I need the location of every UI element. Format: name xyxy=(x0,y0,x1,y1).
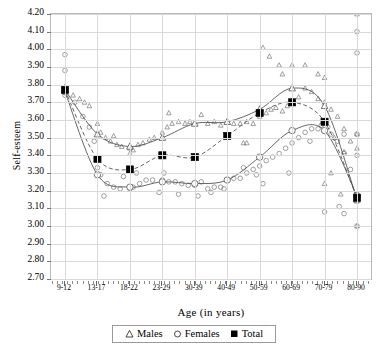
y-gridline xyxy=(51,138,371,139)
series-line-females xyxy=(65,92,357,196)
x-minor-tick xyxy=(139,281,140,284)
x-minor-tick xyxy=(113,281,114,284)
scatter-point-males xyxy=(167,110,172,114)
scatter-point-males xyxy=(280,109,285,113)
y-gridline xyxy=(51,49,371,50)
x-minor-tick xyxy=(261,281,262,284)
y-tick-mark xyxy=(47,173,51,174)
scatter-point-males xyxy=(348,139,353,143)
y-gridline xyxy=(51,279,371,280)
y-tick-mark xyxy=(47,191,51,192)
x-gridline xyxy=(97,14,98,279)
y-axis-tick-label: 3.70 xyxy=(0,96,44,106)
open-circle-icon xyxy=(173,329,182,338)
x-minor-tick xyxy=(322,281,323,284)
x-gridline xyxy=(195,14,196,279)
scatter-point-females xyxy=(261,181,266,186)
y-tick-mark xyxy=(47,208,51,209)
x-minor-tick xyxy=(174,281,175,284)
x-gridline xyxy=(292,14,293,279)
legend-item-total: Total xyxy=(230,328,263,339)
x-minor-tick xyxy=(220,281,221,284)
scatter-point-males xyxy=(199,112,204,116)
x-minor-tick xyxy=(154,281,155,284)
y-axis-tick-label: 4.20 xyxy=(0,8,44,18)
scatter-point-males xyxy=(77,96,82,100)
legend-label: Total xyxy=(242,328,263,339)
scatter-point-females xyxy=(308,139,313,144)
x-gridline xyxy=(130,14,131,279)
x-minor-tick xyxy=(62,281,63,284)
y-axis-tick-label: 4.10 xyxy=(0,26,44,36)
scatter-point-females xyxy=(264,158,269,163)
x-gridline xyxy=(357,14,358,279)
y-axis-tick-label: 2.80 xyxy=(0,255,44,265)
y-axis-tick-label: 3.90 xyxy=(0,61,44,71)
scatter-point-females xyxy=(342,132,347,137)
scatter-point-males xyxy=(338,192,343,196)
scatter-point-males xyxy=(329,107,334,111)
y-gridline xyxy=(51,173,371,174)
x-tick-mark xyxy=(324,281,325,286)
x-minor-tick xyxy=(98,281,99,284)
y-gridline xyxy=(51,67,371,68)
scatter-point-females xyxy=(92,139,97,144)
scatter-point-females xyxy=(196,194,201,199)
x-minor-tick xyxy=(235,281,236,284)
y-gridline xyxy=(51,261,371,262)
plot-area xyxy=(50,13,372,280)
x-minor-tick xyxy=(118,281,119,284)
scatter-point-males xyxy=(231,121,236,125)
x-minor-tick xyxy=(164,281,165,284)
y-tick-mark xyxy=(47,49,51,50)
x-minor-tick xyxy=(332,281,333,284)
y-axis-tick-label: 3.50 xyxy=(0,132,44,142)
x-minor-tick xyxy=(210,281,211,284)
x-minor-tick xyxy=(281,281,282,284)
y-tick-mark xyxy=(47,85,51,86)
x-minor-tick xyxy=(302,281,303,284)
y-gridline xyxy=(51,244,371,245)
scatter-point-males xyxy=(218,123,223,127)
y-gridline xyxy=(51,226,371,227)
x-gridline xyxy=(65,14,66,279)
x-axis-label: Age (in years) xyxy=(50,306,372,318)
x-minor-tick xyxy=(72,281,73,284)
scatter-point-males xyxy=(165,125,170,129)
x-minor-tick xyxy=(286,281,287,284)
x-minor-tick xyxy=(266,281,267,284)
y-tick-mark xyxy=(47,102,51,103)
x-minor-tick xyxy=(134,281,135,284)
scatter-point-males xyxy=(87,103,92,107)
x-tick-mark xyxy=(226,281,227,286)
legend-label: Females xyxy=(185,328,220,339)
x-minor-tick xyxy=(205,281,206,284)
scatter-point-females xyxy=(150,178,155,183)
scatter-point-males xyxy=(251,121,256,125)
x-gridline xyxy=(260,14,261,279)
x-minor-tick xyxy=(307,281,308,284)
scatter-point-females xyxy=(180,181,185,186)
chart-canvas xyxy=(51,14,371,279)
x-minor-tick xyxy=(368,281,369,284)
x-minor-tick xyxy=(185,281,186,284)
x-minor-tick xyxy=(256,281,257,284)
y-axis-tick-label: 2.90 xyxy=(0,238,44,248)
scatter-point-females xyxy=(283,146,288,151)
x-tick-mark xyxy=(161,281,162,286)
y-axis-tick-label: 3.00 xyxy=(0,220,44,230)
legend-label: Males xyxy=(137,328,163,339)
x-tick-mark xyxy=(64,281,65,286)
y-axis-tick-label: 3.80 xyxy=(0,79,44,89)
y-gridline xyxy=(51,14,371,15)
y-tick-mark xyxy=(47,67,51,68)
scatter-point-males xyxy=(316,72,321,76)
scatter-point-females xyxy=(348,167,353,172)
y-tick-mark xyxy=(47,279,51,280)
y-gridline xyxy=(51,191,371,192)
filled-square-icon xyxy=(230,329,239,338)
y-tick-mark xyxy=(47,226,51,227)
x-minor-tick xyxy=(200,281,201,284)
x-minor-tick xyxy=(276,281,277,284)
x-minor-tick xyxy=(297,281,298,284)
